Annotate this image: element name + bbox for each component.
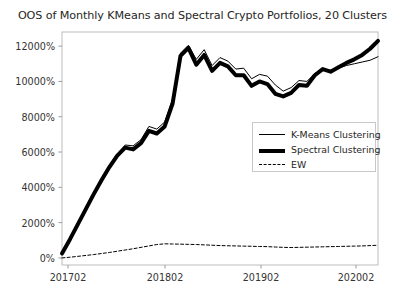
thin-line-icon [259, 128, 285, 140]
dashed-line-icon [259, 158, 285, 170]
x-tick-label: 201902 [243, 272, 280, 283]
legend-item-spectral: Spectral Clustering [259, 142, 380, 156]
y-tick-label: 12000% [15, 41, 55, 52]
chart-legend: K-Means Clustering Spectral Clustering E… [252, 122, 376, 172]
x-tick-label: 201702 [50, 272, 87, 283]
legend-label-kmeans: K-Means Clustering [291, 129, 381, 140]
y-tick-label: 0% [40, 252, 55, 263]
legend-label-ew: EW [291, 159, 306, 170]
x-tick-label: 201802 [147, 272, 184, 283]
y-tick-label: 10000% [15, 76, 55, 87]
y-tick-label: 8000% [21, 111, 55, 122]
y-tick-label: 4000% [21, 182, 55, 193]
legend-item-kmeans: K-Means Clustering [259, 127, 381, 141]
x-tick-label: 202002 [338, 272, 375, 283]
chart-figure: OOS of Monthly KMeans and Spectral Crypt… [0, 0, 405, 296]
series-line [62, 244, 378, 258]
thick-line-icon [259, 143, 285, 155]
y-tick-label: 6000% [21, 147, 55, 158]
legend-label-spectral: Spectral Clustering [291, 144, 380, 155]
y-tick-label: 2000% [21, 217, 55, 228]
legend-item-ew: EW [259, 157, 306, 171]
